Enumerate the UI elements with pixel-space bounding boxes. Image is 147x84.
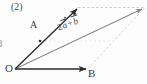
point-label-b: B: [88, 68, 95, 79]
point-label-a: A: [30, 20, 37, 30]
vector-diagram-figure: (2) 3 O A B 2a+b: [0, 0, 147, 84]
construction-line-b-to-corner: [88, 8, 145, 69]
left-clipped-glyph: 3: [0, 38, 3, 49]
resultant-vector-line: [15, 9, 142, 69]
point-a-marker: [39, 40, 42, 43]
point-label-o: O: [5, 63, 13, 74]
item-number-label: (2): [11, 2, 23, 12]
